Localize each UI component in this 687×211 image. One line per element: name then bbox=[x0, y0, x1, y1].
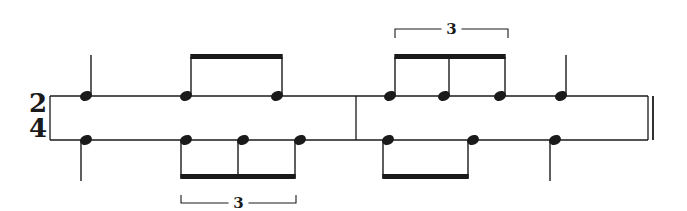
beam bbox=[190, 54, 282, 59]
beam bbox=[180, 174, 295, 179]
tuplet-bracket-right bbox=[462, 29, 509, 38]
beam bbox=[382, 174, 468, 179]
beam bbox=[394, 54, 505, 59]
tuplet-number: 3 bbox=[233, 194, 243, 211]
rhythm-score: 2 4 33 bbox=[0, 0, 687, 211]
time-signature: 2 4 bbox=[29, 88, 47, 143]
tuplet-bracket-left bbox=[181, 195, 229, 203]
notes bbox=[78, 54, 568, 181]
tuplet-bracket-left bbox=[395, 29, 442, 38]
staff bbox=[50, 96, 653, 140]
tuplet-brackets: 33 bbox=[181, 20, 508, 211]
time-signature-denominator: 4 bbox=[29, 113, 47, 143]
tuplet-bracket-right bbox=[249, 195, 297, 203]
tuplet-number: 3 bbox=[446, 20, 456, 38]
